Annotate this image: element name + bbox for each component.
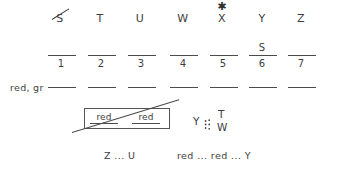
branch-top-label: T xyxy=(218,108,224,120)
letter-glyph: Y xyxy=(258,12,265,25)
strikethrough-slash-icon xyxy=(52,8,69,19)
answer-blank-line[interactable] xyxy=(128,55,156,56)
letter-glyph: T xyxy=(96,12,103,25)
letter-cell-y-5: Y xyxy=(249,12,275,25)
letter-cell-s-0: S xyxy=(47,12,73,25)
boxed-word-1: red xyxy=(90,112,118,122)
answer-blank-line[interactable] xyxy=(249,87,277,88)
answer-blank-line[interactable] xyxy=(48,55,76,56)
blank-number-7: 7 xyxy=(288,58,314,69)
letter-glyph: W xyxy=(177,12,188,25)
answer-blank-line[interactable] xyxy=(249,55,277,56)
filled-answer-6: S xyxy=(249,42,275,53)
letter-cell-t-1: T xyxy=(87,12,113,25)
blank-number-2: 2 xyxy=(88,58,114,69)
answer-blank-line[interactable] xyxy=(170,55,198,56)
letter-cell-z-6: Z xyxy=(288,12,314,25)
answer-blank-line[interactable] xyxy=(288,87,316,88)
letter-cell-u-2: U xyxy=(127,12,153,25)
blank-number-1: 1 xyxy=(48,58,74,69)
worksheet-canvas: STUWX✱YZ 123456S7 red, gr redred Y T W Z… xyxy=(0,0,338,172)
answer-blank-line[interactable] xyxy=(288,55,316,56)
letter-glyph: X✱ xyxy=(218,12,226,25)
blank-number-3: 3 xyxy=(128,58,154,69)
answer-blank-line[interactable] xyxy=(48,87,76,88)
letter-cell-x-4: X✱ xyxy=(209,12,235,25)
boxed-word-underline xyxy=(132,123,160,124)
letter-glyph: S xyxy=(56,12,63,25)
boxed-word-underline xyxy=(90,123,118,124)
answer-blank-line[interactable] xyxy=(88,55,116,56)
blank-number-4: 4 xyxy=(170,58,196,69)
letter-glyph: U xyxy=(136,12,145,25)
answer-blank-line[interactable] xyxy=(210,87,238,88)
blank-number-6: 6 xyxy=(249,58,275,69)
letter-glyph: Z xyxy=(297,12,305,25)
branch-root-label: Y xyxy=(193,115,199,127)
branch-connector-icon xyxy=(204,116,214,129)
bottom-note-2: red ... red ... Y xyxy=(177,150,251,161)
letter-cell-w-3: W xyxy=(170,12,196,25)
blank-number-5: 5 xyxy=(210,58,236,69)
bottom-note-1: Z ... U xyxy=(104,150,135,161)
answer-blank-line[interactable] xyxy=(210,55,238,56)
asterisk-icon: ✱ xyxy=(217,1,227,12)
answer-blank-line[interactable] xyxy=(170,87,198,88)
branch-bottom-label: W xyxy=(217,121,227,133)
answer-blank-line[interactable] xyxy=(128,87,156,88)
boxed-word-2: red xyxy=(132,112,160,122)
row-label-red-gr: red, gr xyxy=(10,82,44,93)
answer-blank-line[interactable] xyxy=(88,87,116,88)
